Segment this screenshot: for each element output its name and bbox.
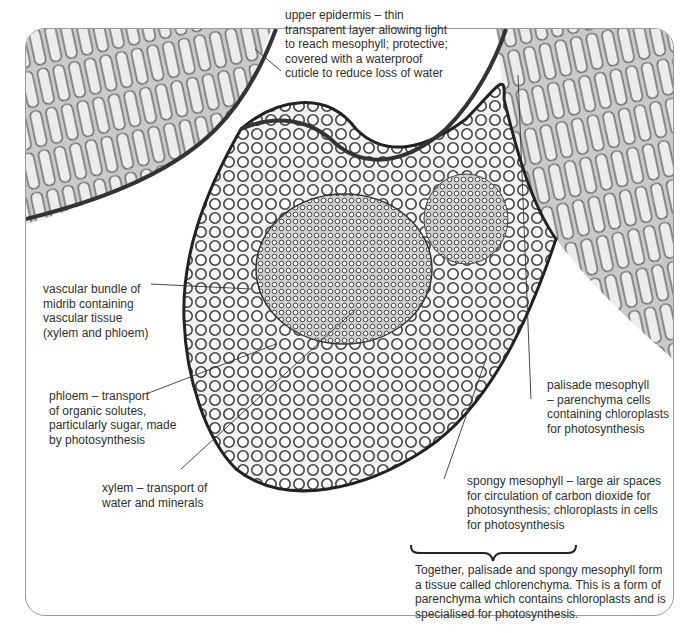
label-line: for photosynthesis xyxy=(467,518,661,533)
label-line: midrib containing xyxy=(43,297,148,312)
label-xylem: xylem – transport of water and minerals xyxy=(102,481,207,510)
label-line: parenchyma which contains chloroplasts a… xyxy=(415,592,666,607)
label-phloem: phloem – transport of organic solutes, p… xyxy=(49,389,176,447)
label-chlorenchyma-note: Together, palisade and spongy mesophyll … xyxy=(415,563,666,621)
label-vascular-bundle: vascular bundle of midrib containing vas… xyxy=(43,282,148,340)
label-line: transparent layer allowing light xyxy=(285,23,448,38)
label-line: phloem – transport xyxy=(49,389,176,404)
label-line: covered with a waterproof xyxy=(285,52,448,67)
label-line: specialised for photosynthesis. xyxy=(415,607,666,622)
label-line: to reach mesophyll; protective; xyxy=(285,37,448,52)
label-line: xylem – transport of xyxy=(102,481,207,496)
label-line: palisade mesophyll xyxy=(547,378,669,393)
label-line: Together, palisade and spongy mesophyll … xyxy=(415,563,666,578)
label-line: upper epidermis – thin xyxy=(285,8,448,23)
label-line: cuticle to reduce loss of water xyxy=(285,66,448,81)
grouping-brace xyxy=(411,545,576,561)
label-line: (xylem and phloem) xyxy=(43,326,148,341)
label-line: photosynthesis; chloroplasts in cells xyxy=(467,503,661,518)
label-line: spongy mesophyll – large air spaces xyxy=(467,474,661,489)
label-spongy-mesophyll: spongy mesophyll – large air spaces for … xyxy=(467,474,661,532)
label-line: for photosynthesis xyxy=(547,422,669,437)
label-line: vascular bundle of xyxy=(43,282,148,297)
label-line: – parenchyma cells xyxy=(547,393,669,408)
label-line: water and minerals xyxy=(102,496,207,511)
label-line: containing chloroplasts xyxy=(547,407,669,422)
label-line: a tissue called chlorenchyma. This is a … xyxy=(415,578,666,593)
vascular-bundle xyxy=(256,194,432,344)
label-upper-epidermis: upper epidermis – thin transparent layer… xyxy=(285,8,448,81)
label-line: vascular tissue xyxy=(43,311,148,326)
label-line: of organic solutes, xyxy=(49,404,176,419)
label-line: particularly sugar, made xyxy=(49,418,176,433)
label-palisade-mesophyll: palisade mesophyll – parenchyma cells co… xyxy=(547,378,669,436)
lateral-vascular-bundle xyxy=(424,174,508,264)
label-line: by photosynthesis xyxy=(49,433,176,448)
label-line: for circulation of carbon dioxide for xyxy=(467,489,661,504)
